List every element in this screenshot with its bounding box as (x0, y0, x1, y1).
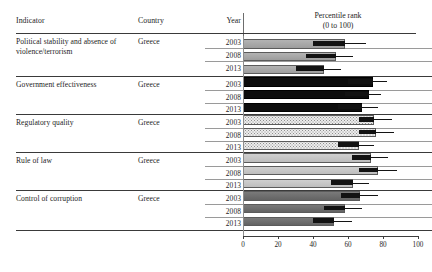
row-indicator-control-of-corruption: Control of corruption (16, 194, 138, 204)
bar-row (243, 139, 432, 152)
bar-row (243, 114, 432, 127)
bar-row (243, 76, 432, 89)
error-bar-whisker (369, 94, 381, 95)
row-year-2008-g1: 2008 (205, 51, 241, 61)
error-bar-whisker (373, 81, 387, 82)
x-axis-tick (418, 236, 419, 239)
governance-indicator-table: Indicator Country Year Percentile rank (… (0, 0, 432, 272)
bar-row (243, 51, 432, 64)
row-country-control-of-corruption: Greece (138, 194, 200, 204)
bar-cap (338, 142, 359, 147)
row-country-rule-of-law: Greece (138, 156, 200, 166)
x-axis: 020406080100 (243, 236, 432, 266)
bar-cap (296, 66, 324, 71)
bar-2003 (243, 115, 374, 124)
error-bar-whisker (345, 208, 363, 209)
x-axis-tick-label: 0 (232, 241, 254, 249)
error-bar-whisker (360, 195, 378, 196)
row-country-regulatory-quality: Greece (138, 118, 200, 128)
row-country-government-effectiveness: Greece (138, 80, 200, 90)
row-year-2013-g1: 2013 (205, 64, 241, 74)
bar-2008 (243, 128, 376, 137)
bar-row (243, 127, 432, 140)
bar-cap (313, 41, 345, 46)
bar-row (243, 89, 432, 102)
error-bar-whisker (334, 221, 352, 222)
bar-cap (306, 54, 336, 59)
x-axis-tick (348, 236, 349, 239)
bar-cap (352, 155, 371, 160)
row-year-2008-g3: 2008 (205, 131, 241, 141)
bar-row (243, 63, 432, 76)
row-indicator-regulatory-quality: Regulatory quality (16, 118, 138, 128)
row-indicator-rule-of-law: Rule of law (16, 156, 138, 166)
bar-cap (338, 104, 363, 109)
row-year-2003-g2: 2003 (205, 80, 241, 90)
row-year-2008-g2: 2008 (205, 93, 241, 103)
x-axis-tick (383, 236, 384, 239)
x-axis-tick-label: 60 (337, 241, 359, 249)
plot-title-line1: Percentile rank (248, 11, 428, 21)
row-year-2003-g3: 2003 (205, 118, 241, 128)
error-bar-whisker (374, 119, 392, 120)
error-bar-whisker (345, 43, 366, 44)
row-year-2013-g5: 2013 (205, 219, 241, 229)
bar-cap (324, 206, 345, 211)
y-axis-line (243, 36, 244, 236)
bar-row (243, 101, 432, 114)
column-header-year: Year (205, 16, 241, 26)
x-axis-tick (313, 236, 314, 239)
error-bar-whisker (324, 69, 342, 70)
error-bar-whisker (376, 132, 394, 133)
bar-cap (345, 92, 370, 97)
error-bar-whisker (359, 145, 375, 146)
bar-row (243, 152, 432, 165)
header-rule (16, 33, 416, 34)
row-year-2003-g1: 2003 (205, 38, 241, 48)
error-bar-whisker (371, 157, 389, 158)
x-axis-tick-label: 80 (372, 241, 394, 249)
plot-title-line2: (0 to 100) (248, 21, 428, 31)
error-bar-whisker (336, 56, 354, 57)
x-axis-tick-label: 100 (407, 241, 429, 249)
bar-chart-plot-area (243, 36, 432, 236)
row-country-political-stability: Greece (138, 37, 200, 47)
column-header-country: Country (138, 16, 200, 26)
column-header-indicator: Indicator (16, 16, 138, 26)
bar-cap (341, 193, 360, 198)
row-year-2008-g4: 2008 (205, 169, 241, 179)
x-axis-line (243, 236, 419, 237)
row-year-2003-g4: 2003 (205, 156, 241, 166)
bar-row (243, 215, 432, 228)
bar-cap (359, 168, 378, 173)
bar-row (243, 38, 432, 51)
row-year-2008-g5: 2008 (205, 207, 241, 217)
bar-cap (348, 79, 373, 84)
x-axis-tick-label: 40 (302, 241, 324, 249)
x-axis-tick (243, 236, 244, 239)
error-bar-whisker (353, 183, 369, 184)
row-indicator-political-stability: Political stability and absence of viole… (16, 37, 138, 56)
bar-row (243, 203, 432, 216)
bar-cap (359, 117, 375, 122)
bar-row (243, 190, 432, 203)
row-indicator-government-effectiveness: Government effectiveness (16, 80, 138, 90)
x-axis-tick-label: 20 (267, 241, 289, 249)
error-bar-whisker (362, 107, 378, 108)
row-year-2003-g5: 2003 (205, 194, 241, 204)
bar-cap (331, 180, 354, 185)
bar-cap (313, 218, 334, 223)
bar-row (243, 177, 432, 190)
error-bar-whisker (378, 170, 397, 171)
bar-row (243, 165, 432, 178)
x-axis-tick (278, 236, 279, 239)
bar-cap (359, 130, 377, 135)
